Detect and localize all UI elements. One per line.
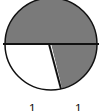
fraction-label-right: 1: [75, 103, 82, 111]
fraction-label-left: 1: [29, 103, 36, 111]
sector-top-half-shaded: [5, 0, 97, 44]
fraction-circle-diagram: [0, 0, 102, 100]
